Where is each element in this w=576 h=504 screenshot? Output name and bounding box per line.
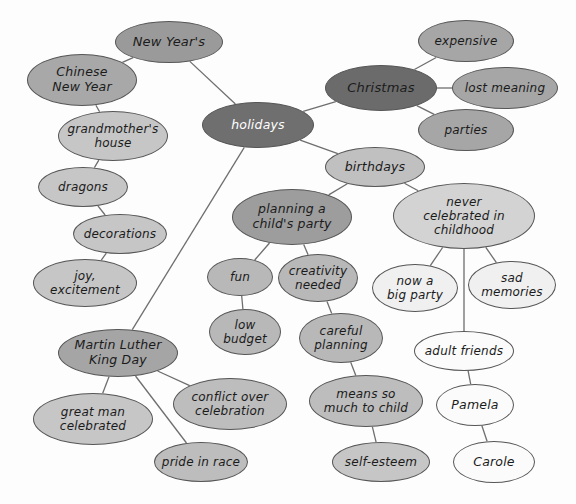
edge-holidays-to-birthdays: [300, 140, 338, 154]
node-pamela[interactable]: Pamela: [436, 384, 514, 426]
node-label-pamela: Pamela: [441, 398, 509, 413]
node-careful-planning[interactable]: carefulplanning: [299, 313, 383, 363]
node-label-parties: parties: [423, 123, 509, 137]
node-holidays[interactable]: holidays: [202, 102, 314, 148]
edge-means-so-much-to-self-esteem: [372, 427, 376, 442]
edge-planning-party-to-creativity-needed: [304, 245, 308, 255]
node-new-years[interactable]: New Year's: [115, 21, 223, 63]
node-sad-memories[interactable]: sadmemories: [468, 261, 556, 309]
node-label-creativity-needed: creativityneeded: [283, 264, 353, 292]
node-never-celebrated[interactable]: nevercelebrated inchildhood: [393, 183, 535, 249]
node-label-carole: Carole: [458, 455, 530, 470]
edge-fun-to-low-budget: [242, 296, 243, 309]
node-label-christmas: Christmas: [330, 80, 432, 95]
edge-christmas-to-parties: [417, 106, 434, 115]
node-christmas[interactable]: Christmas: [325, 65, 437, 111]
node-label-fun: fun: [212, 270, 268, 284]
edge-pamela-to-carole: [482, 426, 487, 442]
node-label-self-esteem: self-esteem: [337, 455, 425, 469]
edge-mlk-day-to-great-man: [103, 377, 109, 394]
node-low-budget[interactable]: lowbudget: [209, 309, 281, 355]
edge-new-years-to-holidays: [190, 61, 236, 104]
edge-adult-friends-to-pamela: [468, 371, 471, 384]
node-label-holidays: holidays: [207, 118, 309, 133]
node-label-adult-friends: adult friends: [419, 344, 509, 358]
node-lost-meaning[interactable]: lost meaning: [452, 67, 558, 109]
edge-careful-planning-to-means-so-much: [351, 362, 356, 375]
node-fun[interactable]: fun: [207, 258, 273, 296]
edge-creativity-needed-to-careful-planning: [327, 301, 332, 313]
node-expensive[interactable]: expensive: [418, 20, 514, 62]
node-label-new-years: New Year's: [120, 34, 218, 49]
node-label-means-so-much: means somuch to child: [314, 387, 418, 415]
node-birthdays[interactable]: birthdays: [325, 147, 425, 187]
node-mlk-day[interactable]: Martin LutherKing Day: [58, 329, 178, 377]
node-great-man[interactable]: great mancelebrated: [33, 393, 153, 445]
node-label-expensive: expensive: [423, 34, 509, 48]
edge-birthdays-to-never-celebrated: [404, 183, 418, 191]
node-now-a-big-party[interactable]: now abig party: [372, 264, 458, 312]
node-label-birthdays: birthdays: [330, 160, 420, 175]
edge-birthdays-to-planning-party: [329, 184, 348, 195]
node-pride-in-race[interactable]: pride in race: [154, 442, 248, 482]
mind-map-canvas: New Year'sChineseNew YearholidaysChristm…: [0, 0, 576, 504]
node-means-so-much[interactable]: means somuch to child: [309, 375, 423, 427]
node-dragons[interactable]: dragons: [38, 167, 128, 207]
node-label-pride-in-race: pride in race: [159, 455, 243, 469]
node-self-esteem[interactable]: self-esteem: [332, 442, 430, 482]
node-label-careful-planning: carefulplanning: [304, 324, 378, 352]
edge-mlk-day-to-conflict-over: [158, 371, 190, 386]
node-decorations[interactable]: decorations: [73, 214, 167, 254]
node-label-grandmothers-house: grandmother'shouse: [63, 122, 163, 150]
node-adult-friends[interactable]: adult friends: [414, 331, 514, 371]
node-carole[interactable]: Carole: [453, 441, 535, 483]
node-label-dragons: dragons: [43, 180, 123, 194]
edge-holidays-to-christmas: [303, 102, 336, 112]
edge-never-celebrated-to-sad-memories: [486, 247, 497, 262]
edge-dragons-to-decorations: [98, 206, 105, 215]
node-planning-party[interactable]: planning achild's party: [232, 189, 352, 245]
edge-new-years-to-chinese-new-year: [122, 58, 133, 63]
node-label-joy-excitement: joy,excitement: [38, 269, 132, 297]
node-label-now-a-big-party: now abig party: [377, 274, 453, 302]
node-label-mlk-day: Martin LutherKing Day: [63, 338, 173, 368]
edge-christmas-to-expensive: [414, 58, 436, 70]
node-label-chinese-new-year: ChineseNew Year: [32, 65, 132, 95]
node-label-lost-meaning: lost meaning: [457, 81, 553, 95]
node-joy-excitement[interactable]: joy,excitement: [33, 259, 137, 307]
node-chinese-new-year[interactable]: ChineseNew Year: [27, 54, 137, 106]
node-label-decorations: decorations: [78, 227, 162, 241]
node-grandmothers-house[interactable]: grandmother'shouse: [58, 111, 168, 161]
node-label-low-budget: lowbudget: [214, 318, 276, 346]
node-parties[interactable]: parties: [418, 109, 514, 151]
edge-never-celebrated-to-now-a-big-party: [430, 248, 442, 266]
node-label-great-man: great mancelebrated: [38, 405, 148, 433]
node-creativity-needed[interactable]: creativityneeded: [278, 254, 358, 302]
node-label-planning-party: planning achild's party: [237, 202, 347, 232]
edge-grandmothers-house-to-dragons: [94, 160, 98, 168]
edge-decorations-to-joy-excitement: [101, 253, 106, 260]
edge-planning-party-to-fun: [255, 243, 270, 260]
node-label-never-celebrated: nevercelebrated inchildhood: [398, 195, 530, 237]
node-label-conflict-over: conflict overcelebration: [178, 390, 282, 418]
node-label-sad-memories: sadmemories: [473, 271, 551, 299]
node-conflict-over[interactable]: conflict overcelebration: [173, 378, 287, 430]
